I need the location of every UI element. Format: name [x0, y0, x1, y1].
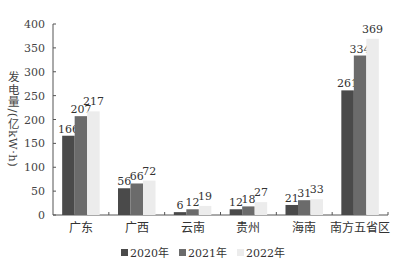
bar-2021年-广东	[75, 116, 88, 215]
data-label: 6	[177, 199, 184, 212]
legend-swatch	[237, 249, 244, 256]
y-tick-label: 300	[24, 66, 45, 79]
bar-2021年-南方五省区	[354, 56, 367, 215]
bar-2022年-南方五省区	[366, 39, 379, 215]
bar-2022年-海南	[311, 199, 324, 215]
y-tick-label: 100	[24, 161, 45, 174]
data-label: 217	[83, 95, 104, 108]
legend-item: 2022年	[237, 244, 285, 260]
legend-swatch	[121, 249, 128, 256]
legend-label: 2021年	[188, 244, 227, 260]
data-label: 33	[310, 183, 324, 196]
y-axis-label-text: 发电量/(亿kW·h)	[5, 71, 21, 167]
bar-2020年-广西	[118, 188, 131, 215]
x-category-label: 贵州	[236, 221, 260, 235]
legend: 2020年2021年2022年	[0, 244, 406, 260]
bar-chart: 发电量/(亿kW·h) 0501001502002503003504001662…	[0, 0, 406, 273]
bar-2022年-广东	[87, 111, 100, 215]
x-category-label: 广东	[69, 221, 93, 235]
data-label: 369	[362, 23, 383, 36]
y-tick-label: 200	[24, 114, 45, 127]
plot-area: 050100150200250300350400166207217广东56667…	[0, 0, 406, 273]
x-category-label: 广西	[125, 221, 149, 235]
bar-2021年-广西	[131, 183, 144, 215]
data-label: 72	[142, 165, 156, 178]
bar-2021年-云南	[186, 209, 199, 215]
y-tick-label: 350	[24, 42, 45, 55]
y-tick-label: 150	[24, 137, 45, 150]
y-tick-label: 50	[31, 185, 45, 198]
legend-label: 2022年	[246, 244, 285, 260]
bar-2020年-南方五省区	[341, 90, 354, 215]
y-tick-label: 0	[38, 209, 45, 222]
bar-2022年-广西	[143, 181, 156, 215]
y-axis-label: 发电量/(亿kW·h)	[2, 24, 24, 215]
bar-2022年-贵州	[255, 202, 268, 215]
bar-2021年-贵州	[242, 206, 255, 215]
y-tick-label: 250	[24, 90, 45, 103]
data-label: 27	[254, 186, 268, 199]
legend-swatch	[179, 249, 186, 256]
bar-2021年-海南	[298, 200, 311, 215]
x-category-label: 云南	[181, 220, 205, 235]
legend-label: 2020年	[130, 244, 169, 260]
bar-2020年-广东	[62, 136, 75, 215]
bar-2022年-云南	[199, 206, 212, 215]
bar-2020年-海南	[286, 205, 299, 215]
y-tick-label: 400	[24, 18, 45, 31]
legend-item: 2021年	[179, 244, 227, 260]
data-label: 19	[198, 190, 212, 203]
bar-2020年-贵州	[230, 209, 243, 215]
x-category-label: 南方五省区	[330, 220, 390, 235]
bar-2020年-云南	[174, 212, 187, 215]
legend-item: 2020年	[121, 244, 169, 260]
x-category-label: 海南	[292, 220, 316, 235]
